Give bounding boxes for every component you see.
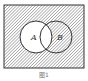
set-b-label: B <box>56 33 63 42</box>
figure-caption: 图1 <box>0 71 88 79</box>
venn-diagram: A B <box>0 0 88 81</box>
set-a-label: A <box>30 33 37 42</box>
